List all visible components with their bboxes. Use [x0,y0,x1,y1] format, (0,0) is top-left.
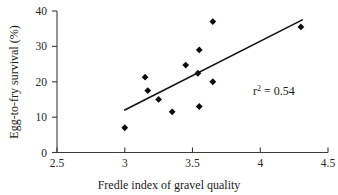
scatter-plot-figure: 0 10 20 30 40 2.5 3 3.5 4 4.5 Fredle ind… [0,0,338,195]
y-tick-label-30: 30 [36,40,48,52]
y-tick-label-0: 0 [41,147,47,159]
x-axis-ticks [57,148,328,153]
data-points-group [121,18,304,131]
x-tick-label-4-5: 4.5 [321,157,336,169]
data-point [182,62,189,69]
data-point [196,47,203,54]
r-squared-suffix: = 0.54 [261,84,295,98]
x-tick-label-3: 3 [122,157,128,169]
data-point [144,87,151,94]
data-point [209,78,216,85]
r-squared-annotation: r2 = 0.54 [253,84,295,98]
y-axis-title: Egg-to-fry survival (%) [7,25,21,138]
x-tick-label-3-5: 3.5 [185,157,200,169]
data-point [169,108,176,115]
chart-canvas: 0 10 20 30 40 2.5 3 3.5 4 4.5 Fredle ind… [0,0,338,195]
x-tick-label-4: 4 [257,157,263,169]
data-point [298,24,305,31]
data-point [142,74,149,81]
data-point [196,103,203,110]
x-axis-title: Fredle index of gravel quality [98,178,241,192]
data-point [155,96,162,103]
y-tick-label-20: 20 [36,76,48,88]
data-point [121,124,128,131]
x-tick-label-2-5: 2.5 [50,157,65,169]
y-tick-label-40: 40 [36,5,48,17]
y-tick-label-10: 10 [36,111,48,123]
data-point [209,18,216,25]
y-axis-ticks [52,11,57,153]
